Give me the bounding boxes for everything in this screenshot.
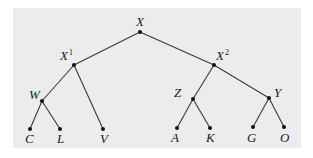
label-x2-text: X [216, 48, 224, 63]
label-v: V [100, 132, 108, 145]
node-x1 [72, 63, 76, 67]
label-y-text: Y [274, 85, 281, 100]
label-x1-text: X [60, 48, 68, 63]
label-o-text: O [280, 130, 289, 145]
edge-w-c [30, 101, 42, 129]
label-x1: X1 [60, 49, 73, 62]
label-a: A [171, 131, 179, 144]
label-w: W [29, 88, 40, 101]
label-x: X [136, 15, 144, 28]
node-w [40, 99, 44, 103]
tree-diagram [0, 0, 313, 158]
edge-x-x1 [74, 32, 140, 65]
edge-z-k [193, 99, 210, 128]
label-a-text: A [171, 130, 179, 145]
edge-w-l [42, 101, 60, 129]
label-l-text: L [57, 131, 64, 146]
label-z-text: Z [174, 85, 181, 100]
edge-y-g [253, 98, 269, 127]
label-z: Z [174, 86, 181, 99]
label-g-text: G [247, 130, 256, 145]
nodes [28, 30, 286, 131]
label-x1-superscript: 1 [69, 48, 73, 57]
label-k: K [206, 131, 215, 144]
label-c-text: C [25, 131, 34, 146]
label-o: O [280, 131, 289, 144]
node-x2 [212, 63, 216, 67]
label-x-text: X [136, 14, 144, 29]
edge-z-a [177, 99, 193, 128]
edge-y-o [269, 98, 284, 127]
edges [30, 32, 284, 129]
label-x2: X2 [216, 49, 229, 62]
label-g: G [247, 131, 256, 144]
node-g [251, 125, 255, 129]
label-y: Y [274, 86, 281, 99]
label-k-text: K [206, 130, 215, 145]
edge-x1-v [74, 65, 103, 129]
label-x2-superscript: 2 [225, 48, 229, 57]
label-v-text: V [100, 131, 108, 146]
edge-x1-w [42, 65, 74, 101]
node-o [282, 125, 286, 129]
label-w-text: W [29, 87, 40, 102]
label-c: C [25, 132, 34, 145]
label-l: L [57, 132, 64, 145]
edge-x-x2 [140, 32, 214, 65]
edge-x2-z [193, 65, 214, 99]
node-x [138, 30, 142, 34]
node-z [191, 97, 195, 101]
node-y [267, 96, 271, 100]
edge-x2-y [214, 65, 269, 98]
